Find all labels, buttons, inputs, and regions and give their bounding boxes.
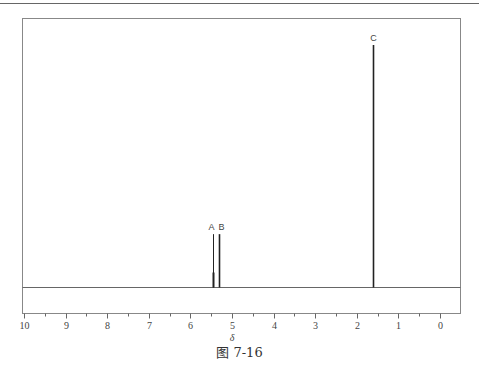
tick-label: 6 — [188, 320, 193, 331]
tick-label: 5 — [230, 320, 235, 331]
tick-label: 1 — [396, 320, 401, 331]
nmr-spectrum-chart: 109876543210 ABC δ — [0, 0, 479, 380]
peak-label-b: B — [218, 222, 224, 232]
spectrum-peaks: ABC — [208, 33, 377, 288]
tick-label: 2 — [355, 320, 360, 331]
tick-label: 3 — [313, 320, 318, 331]
x-axis-ticks: 109876543210 — [20, 314, 444, 331]
tick-label: 10 — [20, 320, 30, 331]
peak-label-a: A — [208, 222, 214, 232]
plot-frame — [23, 19, 461, 314]
tick-label: 9 — [64, 320, 69, 331]
tick-label: 4 — [272, 320, 277, 331]
peak-label-c: C — [370, 33, 377, 43]
tick-label: 8 — [105, 320, 110, 331]
figure-caption: 图 7-16 — [0, 342, 479, 361]
tick-label: 0 — [438, 320, 443, 331]
tick-label: 7 — [147, 320, 152, 331]
